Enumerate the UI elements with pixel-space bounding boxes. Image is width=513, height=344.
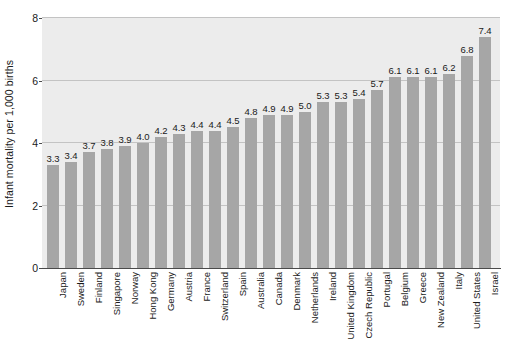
bar-slot[interactable]: 6.1 xyxy=(404,18,422,268)
x-tick-slot: Norway xyxy=(116,269,134,344)
bar[interactable] xyxy=(479,37,491,268)
x-tick-label: Greece xyxy=(413,241,423,272)
bar-value-label: 5.4 xyxy=(348,87,370,98)
bar-slot[interactable]: 5.7 xyxy=(368,18,386,268)
bar-value-label: 4.5 xyxy=(222,115,244,126)
bar[interactable] xyxy=(443,74,455,268)
y-axis-ticks: 02468 xyxy=(0,0,38,344)
bar-slot[interactable]: 3.9 xyxy=(116,18,134,268)
x-tick-slot: Canada xyxy=(260,269,278,344)
bar-slot[interactable]: 4.9 xyxy=(278,18,296,268)
x-tick-slot: Portugal xyxy=(368,269,386,344)
x-tick-slot: Sweden xyxy=(62,269,80,344)
x-tick-slot: New Zealand xyxy=(422,269,440,344)
bar[interactable] xyxy=(407,77,419,268)
x-tick-slot: Hong Kong xyxy=(134,269,152,344)
x-tick-label: Netherlands xyxy=(305,221,315,272)
x-tick-slot: United States xyxy=(458,269,476,344)
x-tick-label: Germany xyxy=(161,233,171,272)
y-tick-label: 8 xyxy=(0,12,38,24)
bar-value-label: 3.4 xyxy=(60,150,82,161)
x-tick-slot: Germany xyxy=(152,269,170,344)
x-tick-slot: Austria xyxy=(170,269,188,344)
x-tick-slot: Finland xyxy=(80,269,98,344)
bar-slot[interactable]: 3.3 xyxy=(44,18,62,268)
x-tick-slot: Australia xyxy=(242,269,260,344)
x-tick-label: Sweden xyxy=(71,238,81,272)
bar-slot[interactable]: 6.1 xyxy=(386,18,404,268)
x-tick-label: Finland xyxy=(89,241,99,272)
x-tick-label: Hong Kong xyxy=(143,224,153,272)
bar-slot[interactable]: 4.9 xyxy=(260,18,278,268)
bar-slot[interactable]: 4.5 xyxy=(224,18,242,268)
bar-slot[interactable]: 4.3 xyxy=(170,18,188,268)
x-tick-slot: Italy xyxy=(440,269,458,344)
x-tick-slot: Greece xyxy=(404,269,422,344)
y-tick-label: 4 xyxy=(0,137,38,149)
bar-value-label: 6.2 xyxy=(438,62,460,73)
x-tick-label: Canada xyxy=(269,239,279,272)
x-axis-tick-labels: JapanSwedenFinlandSingaporeNorwayHong Ko… xyxy=(42,269,500,344)
x-tick-slot: Spain xyxy=(224,269,242,344)
bar-slot[interactable]: 7.4 xyxy=(476,18,494,268)
x-tick-slot: Belgium xyxy=(386,269,404,344)
y-tick-label: 2 xyxy=(0,200,38,212)
x-tick-label: United States xyxy=(467,215,477,272)
x-tick-slot: Singapore xyxy=(98,269,116,344)
bar-value-label: 7.4 xyxy=(474,25,496,36)
x-tick-slot: Ireland xyxy=(314,269,332,344)
x-tick-slot: France xyxy=(188,269,206,344)
bar-value-label: 5.7 xyxy=(366,78,388,89)
x-tick-label: Australia xyxy=(251,235,261,272)
x-tick-label: France xyxy=(197,242,207,272)
x-tick-label: Singapore xyxy=(107,229,117,272)
bar-slot[interactable]: 5.3 xyxy=(314,18,332,268)
infant-mortality-bar-chart: Infant mortality per 1,000 births 02468 … xyxy=(0,0,513,344)
x-tick-label: Austria xyxy=(179,242,189,272)
x-tick-label: New Zealand xyxy=(431,216,441,272)
x-tick-label: Switzerland xyxy=(215,223,225,272)
x-tick-slot: Japan xyxy=(44,269,62,344)
x-tick-label: Norway xyxy=(125,240,135,272)
x-tick-slot: Israel xyxy=(476,269,494,344)
bar-slot[interactable]: 4.4 xyxy=(188,18,206,268)
x-tick-slot: Switzerland xyxy=(206,269,224,344)
x-tick-label: Israel xyxy=(485,249,495,272)
x-tick-slot: United Kingdom xyxy=(332,269,350,344)
bar-value-label: 6.8 xyxy=(456,44,478,55)
y-tick-label: 6 xyxy=(0,75,38,87)
x-tick-label: Ireland xyxy=(323,243,333,272)
y-tick-label: 0 xyxy=(0,262,38,274)
bar-slot[interactable]: 4.8 xyxy=(242,18,260,268)
x-tick-label: Denmark xyxy=(287,233,297,272)
x-tick-label: Czech Republic xyxy=(359,205,369,272)
bar-slot[interactable]: 4.2 xyxy=(152,18,170,268)
x-tick-label: Portugal xyxy=(377,237,387,272)
bar-value-label: 5.0 xyxy=(294,100,316,111)
x-tick-slot: Denmark xyxy=(278,269,296,344)
x-tick-label: United Kingdom xyxy=(341,204,351,272)
x-tick-label: Belgium xyxy=(395,238,405,272)
x-tick-slot: Netherlands xyxy=(296,269,314,344)
bar-slot[interactable]: 6.2 xyxy=(440,18,458,268)
x-tick-slot: Czech Republic xyxy=(350,269,368,344)
